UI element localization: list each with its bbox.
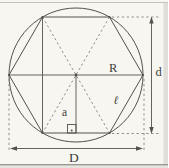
right-angle-dot — [71, 130, 73, 132]
right-page-edge — [164, 2, 169, 165]
diameter-arrow-right — [136, 146, 143, 150]
vertex-dot — [8, 74, 10, 76]
vertex-dot — [41, 132, 43, 134]
bottom-page-edge — [0, 166, 168, 168]
figure-canvas: R d ℓ a D — [0, 0, 168, 168]
vertex-dot — [108, 16, 110, 18]
vertex-dot — [41, 16, 43, 18]
height-label: d — [156, 65, 163, 79]
right-angle-mark — [68, 125, 77, 134]
radius-label: R — [109, 61, 118, 75]
vertex-dot — [142, 74, 144, 76]
height-arrow-up — [149, 17, 153, 24]
hexagon-in-circle-diagram: R d ℓ a D — [0, 0, 168, 168]
height-arrow-down — [149, 127, 153, 134]
diameter-arrow-left — [10, 146, 17, 150]
center-dot — [75, 74, 78, 77]
diameter-label: D — [69, 150, 79, 165]
apothem-label: a — [62, 106, 67, 118]
vertex-dot — [108, 132, 110, 134]
side-label: ℓ — [114, 94, 119, 106]
